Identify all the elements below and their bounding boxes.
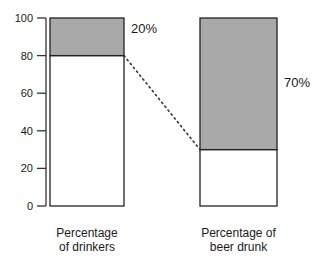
y-tick-label: 20 bbox=[21, 162, 33, 174]
category-label: of drinkers bbox=[59, 240, 115, 254]
category-labels: Percentageof drinkersPercentage ofbeer d… bbox=[56, 226, 276, 254]
bar-segment-lower bbox=[50, 56, 124, 206]
dotted-connector-line bbox=[124, 56, 200, 150]
bar-segment-upper bbox=[200, 18, 277, 150]
y-tick-label: 100 bbox=[15, 12, 33, 24]
category-label: Percentage bbox=[56, 226, 118, 240]
y-tick-label: 40 bbox=[21, 125, 33, 137]
y-tick-label: 0 bbox=[27, 200, 33, 212]
y-tick-label: 60 bbox=[21, 87, 33, 99]
percent-annotation: 70% bbox=[284, 75, 310, 90]
chart: 020406080100 20%70% Percentageof drinker… bbox=[0, 0, 323, 269]
y-tick-label: 80 bbox=[21, 50, 33, 62]
bar-segment-upper bbox=[50, 18, 124, 56]
connector bbox=[124, 56, 200, 150]
bar-segment-lower bbox=[200, 150, 277, 206]
bars bbox=[50, 18, 277, 206]
category-label: beer drunk bbox=[210, 240, 268, 254]
y-axis: 020406080100 bbox=[15, 12, 46, 212]
category-label: Percentage of bbox=[201, 226, 276, 240]
percent-annotation: 20% bbox=[131, 21, 157, 36]
